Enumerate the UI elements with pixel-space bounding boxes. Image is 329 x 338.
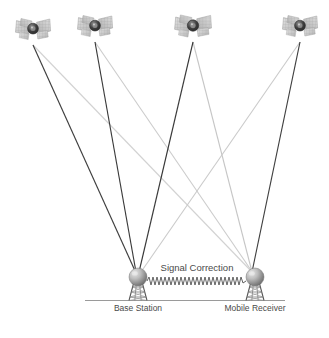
mobile-receiver-label: Mobile Receiver [225, 303, 286, 313]
ray-sat1-to-mobile [33, 45, 253, 273]
gnss-diagram-svg: Signal Correction Base Station Mobile Re… [0, 0, 329, 338]
ray-sat3-to-mobile [193, 42, 252, 272]
signal-rays-light [33, 42, 300, 273]
base-station-label: Base Station [114, 303, 162, 313]
base-station-node [129, 268, 147, 286]
satellite-4-icon [283, 16, 318, 37]
signal-ray-group [33, 42, 300, 273]
ray-sat3-to-base [139, 42, 193, 272]
mobile-receiver-node [246, 268, 264, 286]
ray-sat2-to-mobile [95, 42, 253, 273]
satellite-3-icon [175, 15, 212, 37]
signal-correction-wave [147, 277, 246, 285]
ray-sat2-to-base [95, 42, 136, 272]
diagram-canvas: Signal Correction Base Station Mobile Re… [0, 0, 329, 338]
satellite-1-icon [16, 19, 51, 40]
signal-rays-dark [33, 42, 300, 273]
satellite-2-icon [78, 16, 113, 37]
signal-correction-label: Signal Correction [161, 262, 234, 273]
